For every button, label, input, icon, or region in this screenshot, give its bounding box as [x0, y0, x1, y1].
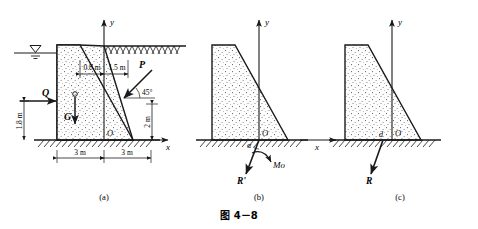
diagram-c: y x O d R (c)	[300, 17, 441, 202]
force-R: R	[365, 140, 383, 186]
base-ground-a	[34, 140, 160, 147]
ground-line-upper-right	[104, 46, 186, 54]
dim-0-8m-label: 0.8 m	[83, 63, 100, 72]
force-R-label: R	[365, 176, 372, 186]
angle-45-label: 45°	[142, 88, 153, 97]
figure-caption: 图 4－8	[220, 210, 257, 221]
dim-right-height: 2 m	[143, 104, 158, 140]
dim-2m-label: 2 m	[143, 116, 152, 128]
dam-body-b	[212, 45, 288, 140]
moment-Mo-label: Mo	[272, 160, 285, 170]
dim-water-depth: 1.8 m	[15, 101, 29, 140]
base-ground-b	[196, 140, 308, 147]
origin-label-b: O	[262, 128, 268, 138]
dim-base-left-label: 3 m	[74, 148, 86, 157]
figure-canvas: y x O Q 1.8 m G	[0, 0, 478, 229]
force-R-prime: α R'	[236, 140, 259, 186]
diagram-b: y O α R' Mo (b)	[196, 17, 308, 202]
origin-label-c: O	[395, 128, 401, 138]
base-ground-c	[329, 140, 441, 147]
subfigure-label-b: (b)	[254, 192, 264, 202]
x-axis-label-a: x	[165, 142, 170, 152]
force-R-prime-label: R'	[236, 176, 246, 186]
x-axis-label-c: x	[314, 142, 319, 152]
dim-base-right-label: 3 m	[121, 148, 133, 157]
force-P-label: P	[139, 59, 146, 70]
dim-1-5m-label: 1.5 m	[108, 63, 125, 72]
dam-body-c	[345, 45, 421, 140]
water-surface	[14, 46, 57, 59]
dim-water-depth-label: 1.8 m	[15, 112, 24, 129]
y-axis-label-b: y	[264, 17, 269, 27]
origin-label-a: O	[107, 128, 113, 138]
dim-base-widths: 3 m 3 m	[57, 148, 151, 163]
force-Q: Q	[20, 87, 56, 101]
y-axis-label-a: y	[109, 17, 114, 27]
subfigure-label-a: (a)	[99, 192, 109, 202]
y-axis-label-c: y	[397, 17, 402, 27]
diagram-a: y x O Q 1.8 m G	[14, 17, 186, 202]
force-G-label: G	[64, 111, 72, 122]
force-Q-label: Q	[42, 87, 49, 98]
moment-Mo: Mo	[252, 152, 285, 170]
figure-4-8: y x O Q 1.8 m G	[0, 0, 478, 229]
subfigure-label-c: (c)	[395, 192, 405, 202]
angle-alpha-label: α	[247, 141, 252, 150]
force-P: P 45°	[124, 59, 155, 98]
